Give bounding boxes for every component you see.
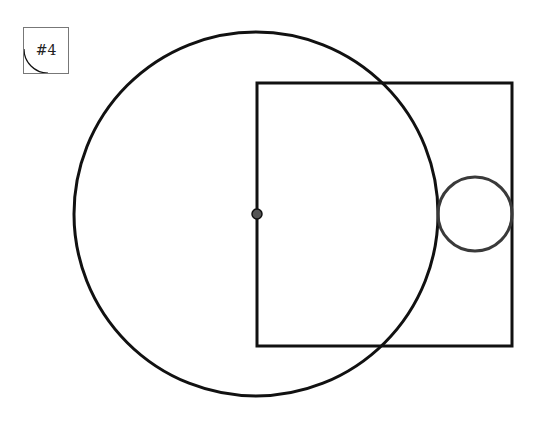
- small-circle: [438, 177, 512, 251]
- square: [257, 83, 512, 346]
- diagram-canvas: [0, 0, 537, 421]
- center-point: [252, 209, 262, 219]
- figure-label-box: #4: [23, 27, 69, 74]
- figure-label: #4: [24, 41, 68, 59]
